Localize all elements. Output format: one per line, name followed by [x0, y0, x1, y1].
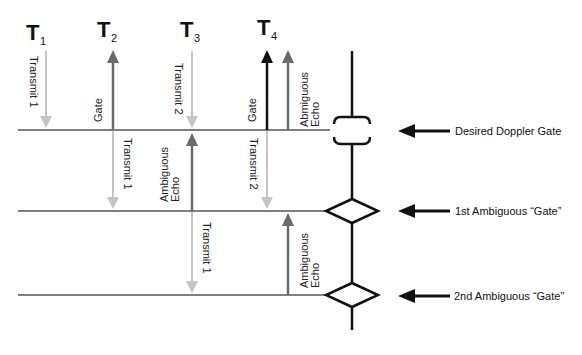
pointer-arrow-first-gate: [398, 204, 450, 218]
transmit-arrow-t3-row3: [186, 212, 198, 293]
arrow-label-transmit1-row3: Transmit 1: [201, 222, 213, 274]
svg-text:T: T: [180, 17, 194, 42]
time-label-t1: T 1: [26, 20, 46, 47]
depth-axis: [326, 51, 378, 330]
arrow-label-ambiguous-row2-b: Echo: [169, 177, 181, 202]
svg-text:T: T: [26, 20, 40, 45]
arrow-label-ambiguous-row3-b: Echo: [309, 263, 321, 288]
transmit-arrow-t3-row1: [186, 51, 198, 128]
echo-arrow-t4-row1: [282, 50, 294, 130]
arrow-label-gate-t4-row1: Gate: [246, 98, 258, 122]
time-label-t2: T 2: [97, 17, 117, 44]
diagram: T 1 T 2 T 3 T 4 Transmit 1 Gate Transmit…: [0, 0, 582, 355]
echo-arrow-t3-row2: [186, 133, 198, 211]
gate-label-second: 2nd Ambiguous “Gate”: [454, 290, 564, 302]
svg-text:T: T: [257, 15, 271, 40]
time-label-t3: T 3: [180, 17, 200, 44]
svg-text:3: 3: [194, 32, 200, 44]
svg-text:4: 4: [271, 30, 277, 42]
time-label-t4: T 4: [257, 15, 277, 42]
transmit-arrow-t4-row2: [261, 131, 273, 209]
echo-arrow-t4-row3: [282, 213, 294, 295]
pointer-arrow-second-gate: [398, 289, 450, 303]
gate-arrow-t2-row1: [107, 50, 119, 130]
transmit-arrow-t1-row1: [40, 51, 52, 128]
svg-text:2: 2: [111, 32, 117, 44]
transmit-arrow-t2-row2: [107, 131, 119, 209]
gate-arrow-t4-row1: [261, 50, 273, 130]
arrow-label-abmiguous-row1-b: Echo: [309, 102, 321, 127]
svg-text:1: 1: [40, 35, 46, 47]
arrow-label-gate-row1: Gate: [92, 98, 104, 122]
gate-label-desired: Desired Doppler Gate: [455, 125, 561, 137]
svg-text:T: T: [97, 17, 111, 42]
arrow-label-transmit2-row2: Transmit 2: [248, 138, 260, 190]
arrow-label-transmit2-row1: Transmit 2: [173, 63, 185, 115]
gate-label-first: 1st Ambiguous “Gate”: [455, 205, 562, 217]
arrow-label-transmit1-row1: Transmit 1: [28, 56, 40, 108]
arrow-label-transmit1-row2: Transmit 1: [122, 138, 134, 190]
pointer-arrow-desired-gate: [398, 124, 450, 138]
